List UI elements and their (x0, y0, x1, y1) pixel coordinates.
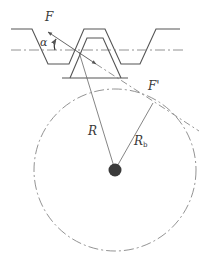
label-force-top: F (44, 10, 54, 24)
label-pressure-angle: α (40, 36, 48, 49)
rack-gear-diagram: F α F' R Rb (0, 0, 210, 266)
label-pitch-radius: R (87, 124, 97, 138)
pitch-radius-line (79, 52, 115, 170)
force-arrow (48, 32, 96, 64)
label-force-right: F' (147, 79, 160, 93)
rack-profile (11, 29, 180, 64)
line-of-action (96, 64, 199, 131)
label-base-radius: Rb (133, 134, 148, 149)
pressure-angle-arc-icon (54, 39, 56, 50)
gear-center-dot (109, 164, 122, 177)
